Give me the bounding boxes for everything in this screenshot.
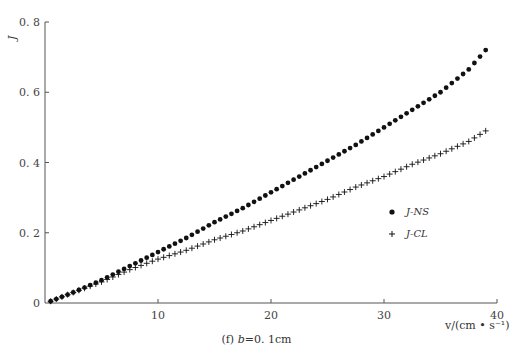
- data-point-plus-icon: [257, 222, 263, 228]
- data-point-plus-icon: [330, 194, 336, 200]
- data-point-plus-icon: [302, 205, 308, 211]
- series-j-ns: [48, 48, 488, 304]
- data-point-dot-icon: [342, 149, 347, 154]
- data-point-plus-icon: [398, 166, 404, 172]
- data-point-plus-icon: [53, 296, 59, 302]
- y-tick-label: 0. 8: [19, 16, 40, 29]
- data-point-dot-icon: [178, 238, 183, 243]
- data-point-plus-icon: [460, 141, 466, 147]
- x-axis-label: v/(cm • s⁻¹): [444, 319, 509, 332]
- data-point-plus-icon: [76, 287, 82, 293]
- data-point-plus-icon: [381, 174, 387, 180]
- data-point-plus-icon: [454, 143, 460, 149]
- data-point-plus-icon: [296, 207, 302, 213]
- data-point-plus-icon: [341, 189, 347, 195]
- data-point-plus-icon: [466, 138, 472, 144]
- data-point-plus-icon: [421, 157, 427, 163]
- data-point-dot-icon: [291, 177, 296, 182]
- data-point-dot-icon: [150, 252, 155, 257]
- y-tick-label: 0. 4: [19, 157, 40, 170]
- data-point-dot-icon: [156, 250, 161, 255]
- data-point-dot-icon: [190, 232, 195, 237]
- chart-canvas: 00. 20. 40. 60. 810203040 J-NS J-CL J v/…: [0, 0, 513, 361]
- data-point-plus-icon: [144, 260, 150, 266]
- data-point-plus-icon: [274, 215, 280, 221]
- data-point-plus-icon: [353, 184, 359, 190]
- data-point-plus-icon: [234, 230, 240, 236]
- data-point-plus-icon: [370, 178, 376, 184]
- data-point-plus-icon: [161, 254, 167, 260]
- data-point-plus-icon: [375, 176, 381, 182]
- data-point-plus-icon: [251, 224, 257, 230]
- data-point-dot-icon: [331, 155, 336, 160]
- data-point-dot-icon: [387, 121, 392, 126]
- data-point-dot-icon: [240, 206, 245, 211]
- y-tick-label: 0. 6: [19, 86, 40, 99]
- data-point-plus-icon: [279, 213, 285, 219]
- data-point-dot-icon: [144, 255, 149, 260]
- data-point-dot-icon: [438, 90, 443, 95]
- data-point-dot-icon: [246, 203, 251, 208]
- data-point-dot-icon: [212, 220, 217, 225]
- legend-label-j-cl: J-CL: [404, 228, 428, 239]
- caption-variable: b: [238, 333, 245, 346]
- data-point-plus-icon: [172, 251, 178, 257]
- data-point-dot-icon: [314, 165, 319, 170]
- data-point-dot-icon: [218, 217, 223, 222]
- data-point-plus-icon: [166, 253, 172, 259]
- data-point-plus-icon: [155, 256, 161, 262]
- data-point-dot-icon: [280, 184, 285, 189]
- data-point-plus-icon: [195, 243, 201, 249]
- y-axis-label: J: [6, 35, 19, 42]
- data-point-plus-icon: [70, 289, 76, 295]
- data-point-plus-icon: [212, 237, 218, 243]
- data-point-dot-icon: [421, 100, 426, 105]
- data-point-dot-icon: [455, 76, 460, 81]
- data-point-plus-icon: [426, 155, 432, 161]
- data-point-plus-icon: [409, 161, 415, 167]
- data-point-plus-icon: [206, 239, 212, 245]
- data-point-dot-icon: [427, 97, 432, 102]
- legend-label-j-ns: J-NS: [404, 206, 429, 217]
- data-point-dot-icon: [466, 67, 471, 72]
- data-point-dot-icon: [336, 152, 341, 157]
- data-point-plus-icon: [291, 209, 297, 215]
- data-point-plus-icon: [477, 131, 483, 137]
- data-point-dot-icon: [319, 162, 324, 167]
- data-point-dot-icon: [269, 190, 274, 195]
- data-point-dot-icon: [195, 229, 200, 234]
- data-point-dot-icon: [432, 93, 437, 98]
- legend-marker-dot-icon: [389, 209, 394, 214]
- data-point-plus-icon: [189, 245, 195, 251]
- data-point-dot-icon: [376, 128, 381, 133]
- data-point-dot-icon: [139, 258, 144, 263]
- data-point-plus-icon: [443, 148, 449, 154]
- data-point-dot-icon: [365, 136, 370, 141]
- y-tick-label: 0. 2: [19, 227, 40, 240]
- legend: J-NS J-CL: [389, 206, 429, 239]
- data-point-dot-icon: [325, 158, 330, 163]
- data-point-plus-icon: [319, 198, 325, 204]
- data-point-dot-icon: [161, 247, 166, 252]
- data-point-dot-icon: [303, 171, 308, 176]
- data-point-plus-icon: [183, 247, 189, 253]
- data-point-plus-icon: [449, 146, 455, 152]
- data-point-plus-icon: [178, 249, 184, 255]
- data-point-plus-icon: [228, 232, 234, 238]
- data-point-plus-icon: [200, 241, 206, 247]
- data-point-dot-icon: [286, 180, 291, 185]
- data-point-plus-icon: [240, 228, 246, 234]
- data-point-plus-icon: [336, 191, 342, 197]
- caption-value: =0. 1cm: [245, 333, 292, 346]
- data-point-dot-icon: [206, 223, 211, 228]
- data-point-plus-icon: [245, 226, 251, 232]
- data-point-dot-icon: [184, 236, 189, 241]
- data-point-plus-icon: [65, 292, 71, 298]
- data-point-plus-icon: [347, 187, 353, 193]
- x-tick-label: 30: [377, 309, 391, 322]
- data-point-plus-icon: [223, 233, 229, 239]
- data-point-dot-icon: [416, 104, 421, 109]
- data-point-plus-icon: [471, 135, 477, 141]
- data-point-plus-icon: [483, 128, 489, 134]
- figure-caption: (f) b=0. 1cm: [0, 333, 513, 346]
